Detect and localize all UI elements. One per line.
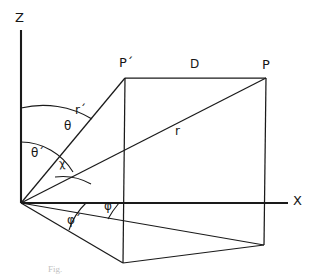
r-vector-line xyxy=(21,78,266,203)
angle-theta-label: θ xyxy=(64,120,71,132)
angle-theta-prime-label: θ´ xyxy=(31,147,44,159)
angle-phi-label: φ xyxy=(104,200,112,212)
figure-caption: Fig. xyxy=(48,265,62,274)
r-prime-vector-line xyxy=(21,78,125,203)
point-p-label: P xyxy=(262,58,270,71)
z-axis-label: Z xyxy=(15,11,24,24)
angle-phi-prime-label: φ´ xyxy=(67,214,81,226)
ground-plane-closing-line xyxy=(123,245,264,263)
figure-container: Z X P´ P D r r´ θ θ´ χ φ φ´ Fig. xyxy=(0,0,312,277)
point-p-prime-label: P´ xyxy=(119,56,133,69)
segment-r-prime-label: r´ xyxy=(75,104,86,116)
x-axis-label: X xyxy=(293,194,302,207)
segment-d-label: D xyxy=(190,58,199,70)
p-vertical-line xyxy=(264,78,266,245)
angle-chi-label: χ xyxy=(59,158,66,169)
diagram-canvas xyxy=(0,0,312,277)
segment-r-label: r xyxy=(175,125,180,137)
p-prime-vertical-line xyxy=(123,78,125,263)
